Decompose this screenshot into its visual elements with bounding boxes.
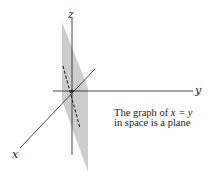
origin-point xyxy=(70,89,73,92)
x-axis-label: x xyxy=(12,148,19,161)
plane-diagram: z y x xyxy=(0,0,210,177)
caption-line-2: in space is a plane xyxy=(114,118,193,128)
z-axis-label: z xyxy=(67,8,74,21)
plane-x-equals-y xyxy=(62,22,88,172)
figure-caption: The graph of x = y in space is a plane xyxy=(114,108,193,128)
y-axis-label: y xyxy=(194,84,202,97)
